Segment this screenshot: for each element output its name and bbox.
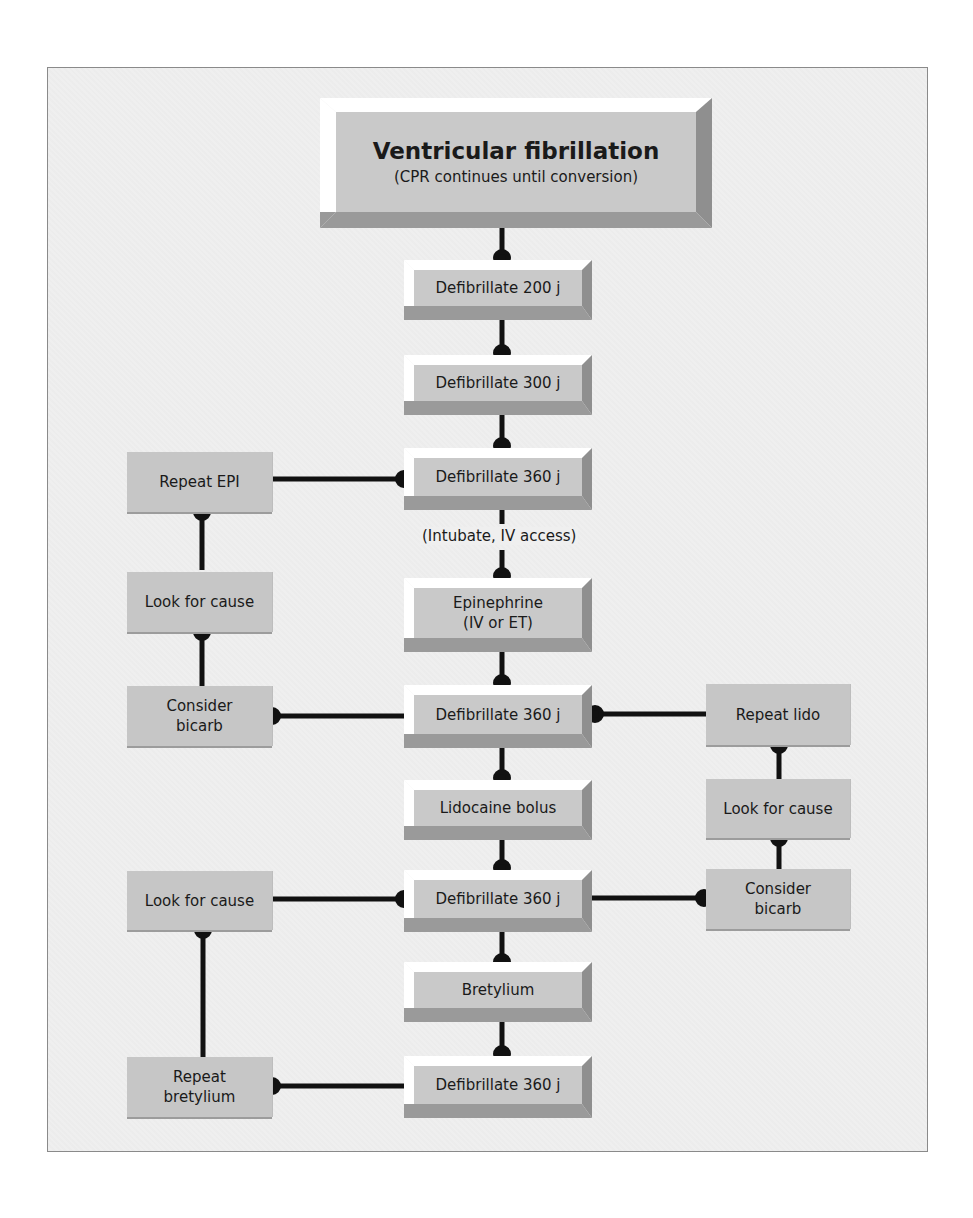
lidocaine-label: Lidocaine bolus — [440, 798, 557, 818]
defib-300-box: Defibrillate 300 j — [404, 355, 592, 415]
consider-bicarb-r-label: Consider — [745, 879, 811, 899]
defib-200-label: Defibrillate 200 j — [435, 278, 560, 298]
look-for-cause-r-label: Look for cause — [723, 799, 832, 819]
vf-title: Ventricular fibrillation — [373, 136, 660, 166]
look-for-cause-l1-box: Look for cause — [127, 572, 272, 632]
defib-200-box: Defibrillate 200 j — [404, 260, 592, 320]
look-for-cause-r-box: Look for cause — [706, 779, 850, 838]
lidocaine-box: Lidocaine bolus — [404, 780, 592, 840]
epinephrine-box: Epinephrine (IV or ET) — [404, 578, 592, 652]
repeat-bretylium-label2: bretylium — [164, 1087, 236, 1107]
vf-title-box: Ventricular fibrillation (CPR continues … — [320, 98, 712, 228]
defib-300-label: Defibrillate 300 j — [435, 373, 560, 393]
consider-bicarb-l1-label: Consider — [166, 696, 232, 716]
intubate-note: (Intubate, IV access) — [420, 527, 578, 545]
bretylium-label: Bretylium — [462, 980, 535, 1000]
defib-360-2-label: Defibrillate 360 j — [435, 705, 560, 725]
repeat-bretylium-box: Repeat bretylium — [127, 1057, 272, 1117]
consider-bicarb-r-box: Consider bicarb — [706, 869, 850, 929]
epinephrine-label: Epinephrine — [453, 593, 543, 613]
bretylium-box: Bretylium — [404, 962, 592, 1022]
defib-360-4-box: Defibrillate 360 j — [404, 1056, 592, 1118]
repeat-epi-label: Repeat EPI — [159, 472, 240, 492]
consider-bicarb-l1-label2: bicarb — [176, 716, 223, 736]
consider-bicarb-r-label2: bicarb — [755, 899, 802, 919]
repeat-bretylium-label: Repeat — [173, 1067, 226, 1087]
repeat-epi-box: Repeat EPI — [127, 452, 272, 512]
defib-360-3-label: Defibrillate 360 j — [435, 889, 560, 909]
repeat-lido-box: Repeat lido — [706, 684, 850, 745]
defib-360-1-box: Defibrillate 360 j — [404, 448, 592, 510]
defib-360-1-label: Defibrillate 360 j — [435, 467, 560, 487]
consider-bicarb-l1-box: Consider bicarb — [127, 686, 272, 746]
defib-360-3-box: Defibrillate 360 j — [404, 870, 592, 932]
look-for-cause-l2-box: Look for cause — [127, 871, 272, 930]
epinephrine-route: (IV or ET) — [463, 613, 533, 633]
defib-360-4-label: Defibrillate 360 j — [435, 1075, 560, 1095]
defib-360-2-box: Defibrillate 360 j — [404, 685, 592, 748]
look-for-cause-l2-label: Look for cause — [145, 891, 254, 911]
repeat-lido-label: Repeat lido — [736, 705, 821, 725]
look-for-cause-l1-label: Look for cause — [145, 592, 254, 612]
vf-subtitle: (CPR continues until conversion) — [394, 166, 638, 188]
